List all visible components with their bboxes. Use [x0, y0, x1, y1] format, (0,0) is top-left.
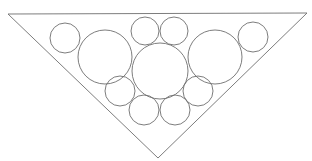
circle-packing-diagram [0, 0, 312, 161]
circle-lower-right-small [183, 76, 213, 106]
inverted-triangle [8, 13, 307, 158]
circle-top-right-small [238, 22, 268, 52]
circle-top-center-right-small [160, 17, 188, 45]
circle-bottom-left-small [129, 95, 159, 125]
circle-center-large [132, 43, 188, 99]
circle-top-center-left-small [131, 17, 159, 45]
circle-left-large [78, 30, 132, 84]
circle-group [50, 17, 268, 125]
circle-top-left-small [50, 23, 80, 53]
circle-lower-left-small [105, 76, 135, 106]
